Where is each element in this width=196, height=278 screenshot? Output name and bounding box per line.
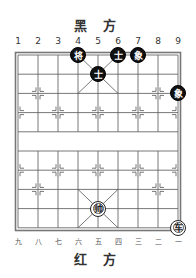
piece-label: 象 [134,49,143,62]
piece-label: 象 [174,87,183,100]
piece-label: 将 [74,49,83,62]
column-number: 六 [71,236,85,246]
column-number: 三 [131,236,145,246]
column-number: 一 [171,236,185,246]
column-number: 二 [151,236,165,246]
column-number: 七 [51,236,65,246]
piece-label: 车 [174,221,183,234]
column-number: 四 [111,236,125,246]
black-advisor-piece[interactable]: 士 [110,47,126,63]
bottom-column-numbers: 九 八 七 六 五 四 三 二 一 [0,236,196,248]
column-number: 八 [31,236,45,246]
column-number: 九 [11,236,25,246]
red-side-title: 红 方 [0,249,196,268]
red-chariot-piece[interactable]: 车 [170,220,186,236]
black-general-piece[interactable]: 将 [70,47,86,63]
red-general-piece[interactable]: 帅 [90,201,106,217]
piece-label: 帅 [94,202,103,215]
black-elephant-piece[interactable]: 象 [130,47,146,63]
piece-label: 士 [94,68,103,81]
piece-label: 士 [114,49,123,62]
column-number: 五 [91,236,105,246]
